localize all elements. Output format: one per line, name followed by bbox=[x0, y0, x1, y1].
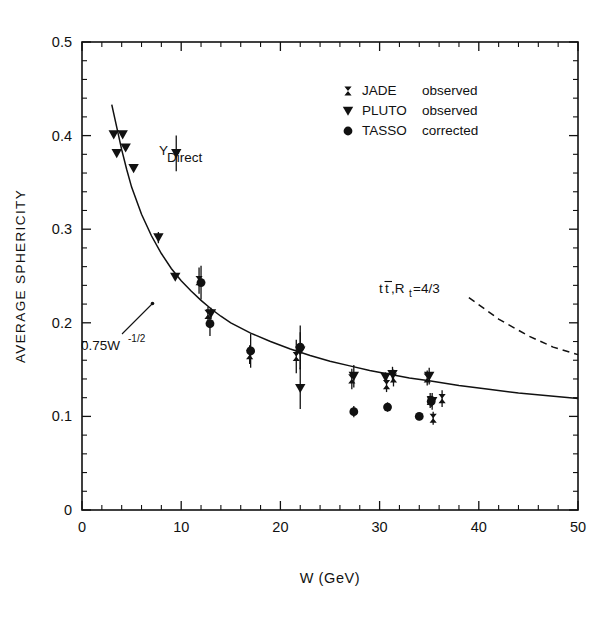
ttbar-prediction-curve bbox=[469, 298, 578, 355]
legend-status-label: observed bbox=[422, 83, 478, 98]
errorbar-marker bbox=[293, 352, 300, 361]
x-tick-label: 50 bbox=[570, 519, 586, 535]
ttbar-t1: t bbox=[379, 281, 383, 296]
y-axis-tick-labels: 00.10.20.30.40.5 bbox=[52, 34, 72, 518]
ttbar-subscript: t bbox=[409, 288, 412, 299]
x-tick-label: 20 bbox=[272, 519, 288, 535]
circle-marker bbox=[344, 127, 353, 136]
fit-curve-label: 0.75W bbox=[81, 338, 120, 353]
y-tick-label: 0.1 bbox=[52, 408, 72, 424]
errorbar-marker bbox=[344, 86, 351, 95]
x-axis-title: W (GeV) bbox=[300, 570, 361, 586]
x-axis-ticks bbox=[82, 42, 578, 510]
leader-dot bbox=[151, 302, 155, 306]
y-tick-label: 0.3 bbox=[52, 221, 72, 237]
plot-frame bbox=[82, 42, 578, 510]
y-tick-label: 0.2 bbox=[52, 315, 72, 331]
errorbar-marker bbox=[383, 380, 390, 389]
ttbar-value: =4/3 bbox=[413, 281, 440, 296]
x-tick-label: 30 bbox=[372, 519, 388, 535]
y-tick-label: 0.4 bbox=[52, 128, 72, 144]
errorbar-marker bbox=[430, 414, 437, 423]
errorbar-marker bbox=[390, 373, 397, 382]
ttbar-rest: ,R bbox=[391, 281, 405, 296]
series-pluto-observed bbox=[109, 130, 438, 409]
legend-experiment-name: PLUTO bbox=[362, 103, 407, 118]
y-tick-label: 0.5 bbox=[52, 34, 72, 50]
y-tick-label: 0 bbox=[64, 502, 72, 518]
leader-line bbox=[122, 304, 152, 334]
circle-marker bbox=[383, 403, 392, 412]
triangle-down-marker bbox=[112, 149, 122, 158]
legend-experiment-name: TASSO bbox=[362, 123, 407, 138]
legend-status-label: observed bbox=[422, 103, 478, 118]
x-tick-label: 0 bbox=[78, 519, 86, 535]
circle-marker bbox=[206, 319, 215, 328]
data-points bbox=[109, 130, 446, 424]
ttbar-annotation: t t ,R t =4/3 bbox=[379, 281, 440, 299]
upsilon-direct-annotation: Υ Direct bbox=[159, 143, 203, 165]
legend-experiment-name: JADE bbox=[362, 83, 397, 98]
x-tick-label: 40 bbox=[471, 519, 487, 535]
upsilon-direct-label: Direct bbox=[167, 150, 203, 165]
errorbar-marker bbox=[438, 394, 445, 403]
circle-marker bbox=[349, 407, 358, 416]
figure-container: 01020304050 00.10.20.30.40.5 W (GeV) AVE… bbox=[0, 0, 615, 623]
triangle-down-marker bbox=[128, 164, 138, 173]
circle-marker bbox=[415, 412, 424, 421]
ttbar-t2: t bbox=[385, 281, 389, 296]
triangle-down-marker bbox=[109, 130, 119, 139]
x-axis-tick-labels: 01020304050 bbox=[78, 519, 586, 535]
power-law-fit-curve bbox=[112, 105, 578, 399]
legend: JADEobservedPLUTOobservedTASSOcorrected bbox=[343, 83, 478, 138]
x-tick-label: 10 bbox=[173, 519, 189, 535]
legend-status-label: corrected bbox=[422, 123, 478, 138]
triangle-down-marker bbox=[295, 384, 305, 393]
fit-curve-exponent: -1/2 bbox=[128, 333, 146, 344]
fit-curve-annotation: 0.75W -1/2 bbox=[81, 302, 154, 353]
circle-marker bbox=[296, 343, 305, 352]
y-axis-ticks bbox=[82, 42, 578, 510]
y-axis-title: AVERAGE SPHERICITY bbox=[13, 189, 28, 363]
fitted-curves bbox=[112, 105, 578, 399]
sphericity-scatter-plot: 01020304050 00.10.20.30.40.5 W (GeV) AVE… bbox=[0, 0, 615, 623]
triangle-down-marker bbox=[343, 107, 353, 116]
